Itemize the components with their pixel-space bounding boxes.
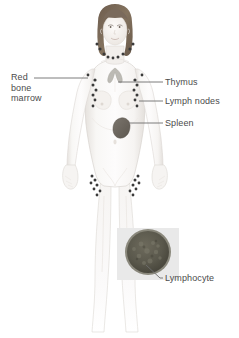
label-red-bone-marrow-line1: Red	[11, 72, 71, 83]
label-lymphocyte: Lymphocyte	[165, 273, 214, 284]
label-spleen: Spleen	[165, 118, 194, 129]
label-thymus: Thymus	[165, 77, 198, 88]
label-red-bone-marrow-line3: marrow	[11, 93, 71, 104]
label-red-bone-marrow-line2: bone	[11, 83, 71, 94]
lymphatic-system-figure: Red bone marrow Thymus Lymph nodes Splee…	[0, 0, 239, 338]
label-red-bone-marrow: Red bone marrow	[11, 72, 71, 104]
label-lymph-nodes: Lymph nodes	[165, 96, 220, 107]
body-illustration	[0, 0, 239, 338]
